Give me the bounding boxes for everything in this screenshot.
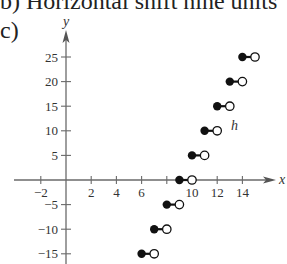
- closed-dot: [188, 151, 196, 159]
- x-tick-label: 10: [186, 185, 199, 200]
- closed-dot: [150, 225, 158, 233]
- open-dot: [251, 53, 259, 61]
- x-tick-label: 4: [113, 185, 120, 200]
- open-dot: [238, 77, 246, 85]
- x-tick-label: 2: [88, 185, 95, 200]
- closed-dot: [163, 200, 171, 208]
- open-dot: [213, 127, 221, 135]
- closed-dot: [213, 102, 221, 110]
- open-dot: [163, 225, 171, 233]
- x-tick-label: 6: [138, 185, 145, 200]
- open-dot: [150, 250, 158, 258]
- step-function-graph: xy−2246101214252015105−5−10−15h: [0, 0, 287, 264]
- open-dot: [188, 176, 196, 184]
- open-dot: [175, 200, 183, 208]
- closed-dot: [226, 77, 234, 85]
- x-tick-label: 12: [211, 185, 224, 200]
- y-tick-label: −10: [38, 222, 58, 237]
- labels: xy−2246101214252015105−5−10−15h: [34, 14, 286, 261]
- closed-dot: [175, 176, 183, 184]
- y-tick-label: −15: [38, 246, 58, 261]
- closed-dot: [200, 127, 208, 135]
- x-axis-label: x: [278, 172, 286, 187]
- step-segments: [137, 53, 259, 258]
- y-tick-label: 10: [45, 123, 58, 138]
- closed-dot: [238, 53, 246, 61]
- y-tick-label: 15: [45, 99, 58, 114]
- y-tick-label: 5: [52, 148, 59, 163]
- open-dot: [226, 102, 234, 110]
- y-axis-label: y: [61, 14, 70, 29]
- open-dot: [200, 151, 208, 159]
- y-tick-label: 20: [45, 74, 58, 89]
- ticks: [41, 57, 243, 254]
- function-label: h: [231, 118, 238, 133]
- closed-dot: [137, 250, 145, 258]
- x-tick-label: 14: [236, 185, 250, 200]
- y-tick-label: −5: [44, 197, 58, 212]
- y-tick-label: 25: [45, 50, 58, 65]
